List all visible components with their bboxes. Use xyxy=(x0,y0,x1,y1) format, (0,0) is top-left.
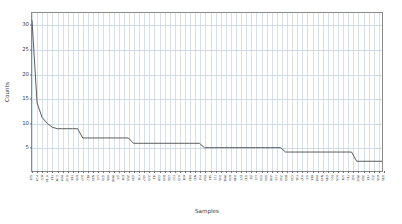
x-axis-tick-label: D31 xyxy=(381,175,384,181)
x-axis-tick-mark xyxy=(139,171,140,173)
x-axis-tick-mark xyxy=(103,171,104,173)
x-axis-tick-mark xyxy=(302,171,303,173)
x-axis-tick-mark xyxy=(175,171,176,173)
x-axis-tick-mark xyxy=(32,171,33,173)
x-axis-tick-label: W31 xyxy=(223,175,226,181)
x-axis-tick-mark xyxy=(292,171,293,173)
x-axis-tick-mark xyxy=(180,171,181,173)
x-axis-tick-label: B03 xyxy=(162,175,165,181)
x-axis-tick-mark xyxy=(333,171,334,173)
x-axis-tick-label: G21 xyxy=(101,175,104,181)
x-axis-tick-mark xyxy=(211,171,212,173)
x-axis-tick-label: B22 xyxy=(40,175,43,181)
x-axis-tick-label: C30 xyxy=(290,175,293,181)
x-axis-tick-label: M28 xyxy=(315,175,318,181)
x-axis-tick-mark xyxy=(205,171,206,173)
x-axis-tick-mark xyxy=(364,171,365,173)
x-axis-tick-label: A05 xyxy=(376,175,379,181)
x-axis-tick-label: X19 xyxy=(361,175,364,181)
y-axis-label-text: Counts xyxy=(5,82,11,102)
x-axis-tick-mark xyxy=(369,171,370,173)
x-axis-tick-mark xyxy=(114,171,115,173)
x-axis-tick-mark xyxy=(134,171,135,173)
y-axis-tick-mark xyxy=(30,25,33,26)
x-axis-tick-mark xyxy=(236,171,237,173)
y-axis-tick-label: 10 xyxy=(22,121,29,126)
x-axis-label: Samples xyxy=(31,208,383,214)
x-axis-tick-mark xyxy=(109,171,110,173)
x-axis-tick-label: G12 xyxy=(244,175,247,181)
x-axis-tick-mark xyxy=(195,171,196,173)
x-axis-tick-mark xyxy=(78,171,79,173)
series-line xyxy=(32,13,382,171)
x-axis-tick-mark xyxy=(226,171,227,173)
x-axis-tick-mark xyxy=(165,171,166,173)
x-axis-tick-label: Q21 xyxy=(259,175,262,181)
x-axis-tick-mark xyxy=(272,171,273,173)
x-axis-tick-label: V05 xyxy=(218,175,221,181)
x-axis-tick-mark xyxy=(170,171,171,173)
x-axis-tick-mark xyxy=(42,171,43,173)
x-axis-tick-label: A09 xyxy=(228,175,231,181)
x-axis-tick-label: H25 xyxy=(177,175,180,181)
x-axis-tick-mark xyxy=(216,171,217,173)
x-axis-tick-label: E04 xyxy=(121,175,124,180)
x-axis-tick-mark xyxy=(73,171,74,173)
x-axis-tick-label: F14 xyxy=(50,175,53,180)
x-axis-tick-mark xyxy=(52,171,53,173)
x-axis-tick-label: H-19 xyxy=(45,175,48,182)
x-axis-tick-mark xyxy=(190,171,191,173)
x-axis-tick-mark xyxy=(37,171,38,173)
x-axis-tick-mark xyxy=(98,171,99,173)
x-axis-tick-label: O15 xyxy=(325,175,328,181)
x-axis-tick-mark xyxy=(313,171,314,173)
x-axis-tick-label: D18 xyxy=(233,175,236,181)
x-axis-tick-mark xyxy=(384,171,385,173)
y-axis-tick-label: 20 xyxy=(22,72,29,77)
x-axis-tick-label: Z22 xyxy=(371,175,374,181)
x-axis-tick-mark xyxy=(119,171,120,173)
x-axis-tick-mark xyxy=(282,171,283,173)
y-axis-label: Counts xyxy=(3,12,12,172)
x-axis-tick-label: Y29 xyxy=(274,175,277,180)
x-axis-tick-mark xyxy=(287,171,288,173)
plot-area: 51015202530 xyxy=(31,12,383,172)
x-axis-tick-mark xyxy=(83,171,84,173)
x-axis-tick-label: W07 xyxy=(356,175,359,181)
x-axis-tick-mark xyxy=(241,171,242,173)
x-axis-tick-label: F06 xyxy=(295,175,298,180)
x-axis-tick-label: R19 xyxy=(203,175,206,181)
x-axis-tick-mark xyxy=(348,171,349,173)
x-axis-tick-label: O28 xyxy=(157,175,160,181)
x-axis-tick-mark xyxy=(328,171,329,173)
series-polyline xyxy=(32,20,382,161)
x-axis-tick-label: A05 xyxy=(75,175,78,181)
x-axis-tick-mark xyxy=(154,171,155,173)
x-axis-tick-label: J29 xyxy=(116,175,119,179)
x-axis-tick-label: R-07 xyxy=(65,175,68,181)
x-axis-tick-label: B13 xyxy=(284,175,287,181)
x-axis-tick-label: I23 xyxy=(305,175,308,179)
x-axis-tick-label: H17 xyxy=(300,175,303,181)
x-axis-tick-mark xyxy=(343,171,344,173)
x-axis-tick-mark xyxy=(256,171,257,173)
y-axis-tick-label: 5 xyxy=(26,146,29,151)
x-axis-tick-mark xyxy=(47,171,48,173)
x-axis-tick-mark xyxy=(338,171,339,173)
x-axis-tick-label: F20 xyxy=(172,175,175,180)
x-axis-tick-label: N32 xyxy=(193,175,196,181)
x-axis-tick-mark xyxy=(93,171,94,173)
x-axis-tick-label: K01 xyxy=(182,175,185,181)
x-axis-tick-label: S14 xyxy=(208,175,211,180)
x-axis-tick-label: Y06 xyxy=(137,175,140,180)
y-axis-tick-label: 15 xyxy=(22,96,29,101)
x-axis-tick-label: K12 xyxy=(86,175,89,181)
x-axis-tick-mark xyxy=(323,171,324,173)
x-axis-tick-label: Z04 xyxy=(279,175,282,181)
x-axis-tick-label: V16 xyxy=(106,175,109,181)
x-axis-tick-label: T22 xyxy=(213,175,216,180)
x-axis-tick-label: E27 xyxy=(239,175,242,180)
y-axis-tick-mark xyxy=(30,49,33,50)
x-axis-tick-label: M10 xyxy=(188,175,191,181)
x-axis-tick-mark xyxy=(267,171,268,173)
